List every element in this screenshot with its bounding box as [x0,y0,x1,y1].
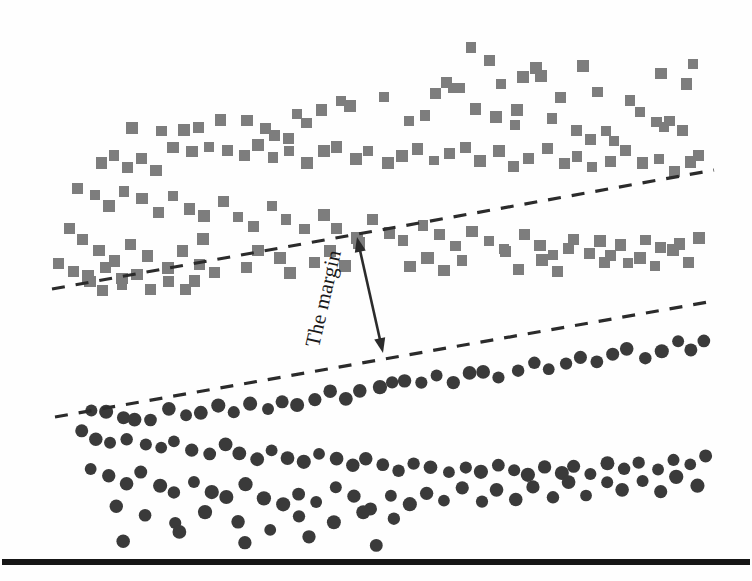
data-point-square [577,60,589,72]
data-point-square [674,238,685,249]
data-point-square [119,186,130,197]
data-point-circle [327,515,341,529]
data-point-square [184,203,196,215]
data-point-circle [313,448,325,460]
data-point-circle [373,380,387,394]
data-point-circle [168,436,180,448]
data-point-square [186,146,197,157]
data-point-circle [219,490,233,504]
data-point-square [559,158,570,169]
data-point-square [241,115,253,127]
data-point-square [396,150,408,162]
data-point-circle [250,452,264,466]
data-point-square [496,79,506,89]
data-point-square [571,125,582,136]
data-point-square [367,214,378,225]
data-point-square [72,183,83,194]
data-point-square [519,229,530,240]
data-point-square [209,267,220,278]
data-point-circle [185,444,198,457]
data-point-square [292,109,302,119]
data-point-circle [392,465,404,477]
data-point-circle [281,451,295,465]
data-point-circle [560,357,572,369]
data-point-square [336,96,346,106]
data-point-square [350,153,362,165]
data-point-square [103,200,115,212]
data-point-circle [690,479,704,493]
data-point-circle [257,491,271,505]
data-point-square [412,143,424,155]
data-point-square [204,142,214,152]
data-point-square [153,207,164,218]
data-point-square [198,210,210,222]
data-point-square [466,226,478,238]
data-point-circle [290,398,304,412]
data-point-square [434,229,445,240]
data-point-square [100,262,111,273]
data-point-circle [567,460,580,473]
data-point-circle [388,513,400,525]
data-point-square [513,264,524,275]
data-point-square [344,100,356,112]
data-point-square [379,92,389,102]
data-point-circle [203,448,216,461]
data-point-circle [698,335,711,348]
data-point-square [177,245,189,257]
data-point-square [605,156,616,167]
data-point-square [283,133,294,144]
data-point-circle [655,344,669,358]
data-point-circle [463,366,477,380]
data-point-circle [684,459,696,471]
data-point-circle [228,406,240,418]
data-point-square [53,258,64,269]
data-point-circle [385,490,397,502]
data-point-circle [308,393,321,406]
data-point-circle [476,365,490,379]
data-point-circle [339,392,353,406]
data-point-circle [347,489,360,502]
data-point-circle [134,466,147,479]
data-point-square [517,71,529,83]
data-point-square [444,148,455,159]
data-point-square [96,157,107,168]
data-point-square [163,276,174,287]
data-point-square [429,156,439,166]
data-point-circle [211,399,225,413]
data-point-square [331,141,343,153]
data-point-square [318,209,330,221]
data-point-square [122,162,133,173]
data-point-circle [580,490,592,502]
data-point-square [438,265,450,277]
data-point-square [450,241,460,251]
data-point-circle [699,449,712,462]
data-point-square [64,223,75,234]
data-point-square [523,153,534,164]
data-point-square [493,145,505,157]
data-point-circle [652,464,664,476]
data-point-square [594,235,606,247]
data-point-circle [620,342,634,356]
data-point-circle [356,505,370,519]
data-point-square [316,104,327,115]
data-point-circle [654,485,667,498]
data-point-square [150,165,161,176]
data-point-square [535,70,546,81]
data-point-circle [198,505,212,519]
data-point-square [490,111,502,123]
data-point-square [301,157,313,169]
data-point-square [281,214,292,225]
data-point-square [457,255,468,266]
data-point-circle [526,480,539,493]
data-point-circle [168,486,180,498]
data-point-circle [667,454,679,466]
data-point-square [136,193,147,204]
data-point-circle [476,496,488,508]
data-point-circle [120,433,132,445]
data-point-square [664,116,675,127]
data-point-circle [188,476,200,488]
data-point-circle [601,476,613,488]
data-point-circle [443,466,455,478]
data-point-circle [104,437,116,449]
data-point-square [585,134,596,145]
